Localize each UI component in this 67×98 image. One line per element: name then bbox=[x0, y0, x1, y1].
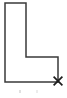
artifact-speck-left bbox=[19, 90, 21, 93]
figure-canvas bbox=[0, 0, 67, 98]
l-shape-diagram bbox=[0, 0, 67, 98]
artifact-speck-right bbox=[36, 90, 38, 93]
l-shaped-polygon bbox=[5, 3, 58, 82]
